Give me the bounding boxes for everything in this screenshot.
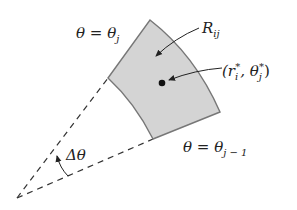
ray-theta-j: [17, 78, 108, 198]
polar-region-diagram: θ = θj Rij (ri*, θj*) θ = θj − 1 Δθ: [0, 0, 297, 210]
sample-point: [159, 80, 166, 87]
label-sample-point: (ri*, θj*): [222, 61, 270, 82]
label-theta-j-minus-1: θ = θj − 1: [183, 138, 247, 158]
polar-rectangle-region: [108, 20, 220, 139]
label-theta-j: θ = θj: [76, 24, 119, 44]
label-region: Rij: [201, 19, 220, 39]
label-delta-theta: Δθ: [65, 146, 86, 164]
